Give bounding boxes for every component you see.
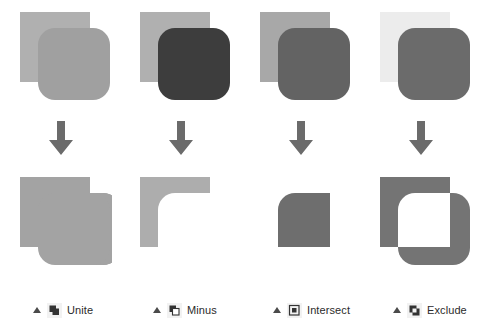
front-rounded-square <box>38 28 110 100</box>
down-arrow-icon <box>168 121 194 157</box>
caption-label: Minus <box>187 303 217 318</box>
triangle-up-icon <box>273 307 281 313</box>
triangle-up-icon <box>393 307 401 313</box>
caption-unite[interactable]: Unite <box>0 298 122 322</box>
arrow-stage-unite <box>0 118 122 164</box>
caption-label: Exclude <box>427 303 467 318</box>
source-shapes-unite <box>0 0 122 115</box>
arrow-stage-intersect <box>240 118 362 164</box>
result-stage-unite <box>0 165 122 283</box>
source-shapes-exclude <box>360 0 482 115</box>
arrow-stage-exclude <box>360 118 482 164</box>
down-arrow-icon <box>288 121 314 157</box>
panel-unite: Unite <box>0 0 122 328</box>
minus-result-shape <box>130 165 232 275</box>
source-shapes-intersect <box>240 0 362 115</box>
caption-minus[interactable]: Minus <box>120 298 242 322</box>
panel-intersect: Intersect <box>240 0 362 328</box>
boolean-operations-board: Unite <box>0 0 488 328</box>
intersect-icon <box>287 303 302 318</box>
result-stage-minus <box>120 165 242 283</box>
exclude-icon <box>407 303 422 318</box>
arrow-stage-minus <box>120 118 242 164</box>
caption-exclude[interactable]: Exclude <box>360 298 482 322</box>
panel-exclude: Exclude <box>360 0 482 328</box>
unite-result-shape <box>10 165 112 275</box>
intersect-result-shape <box>250 165 352 275</box>
caption-label: Intersect <box>307 303 350 318</box>
down-arrow-icon <box>48 121 74 157</box>
result-stage-exclude <box>360 165 482 283</box>
minus-front-icon <box>167 303 182 318</box>
front-rounded-square <box>398 28 470 100</box>
caption-intersect[interactable]: Intersect <box>240 298 362 322</box>
front-rounded-square <box>278 28 350 100</box>
down-arrow-icon <box>408 121 434 157</box>
result-stage-intersect <box>240 165 362 283</box>
front-rounded-square <box>158 28 230 100</box>
caption-label: Unite <box>67 303 93 318</box>
triangle-up-icon <box>153 307 161 313</box>
unite-icon <box>47 303 62 318</box>
triangle-up-icon <box>33 307 41 313</box>
source-shapes-minus <box>120 0 242 115</box>
exclude-result-shape <box>370 165 472 275</box>
panel-minus: Minus <box>120 0 242 328</box>
